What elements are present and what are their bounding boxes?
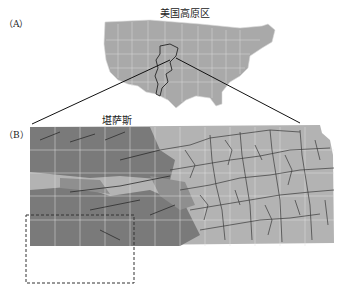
us-map bbox=[104, 20, 275, 108]
map-figure bbox=[0, 0, 348, 292]
